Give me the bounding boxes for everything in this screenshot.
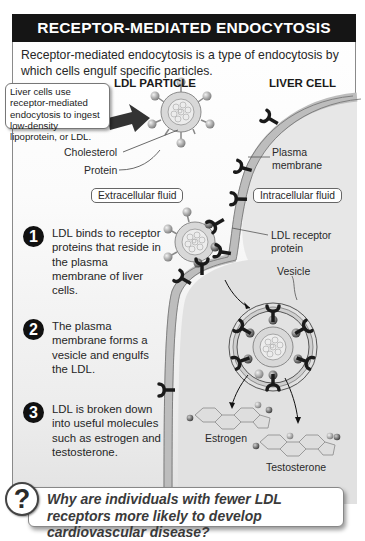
plasma-membrane-label-2: membrane [272,159,322,172]
step-2-number-icon: 2 [23,319,44,340]
cholesterol-label: Cholesterol [64,146,117,159]
question-box: Why are individuals with fewer LDL recep… [28,487,344,527]
ldl-receptor-label-2: protein [271,242,303,255]
step-1-number-icon: 1 [23,226,44,247]
step-2-text: The plasma membrane forms a vesicle and … [52,319,162,376]
protein-label: Protein [84,164,117,177]
callout-box: Liver cells use receptor-mediated endocy… [5,83,110,129]
vesicle-icon [229,303,317,391]
step-1-text: LDL binds to receptor proteins that resi… [52,226,162,297]
ldl-receptor-label-1: LDL receptor [271,229,331,242]
callout-arrow-icon [108,104,150,132]
extracellular-fluid-label: Extracellular fluid [91,188,183,203]
liver-cell-heading: LIVER CELL [269,77,336,89]
intracellular-fluid-label: Intracellular fluid [253,188,342,203]
question-mark-icon: ? [5,482,39,516]
plasma-membrane-label-1: Plasma [272,146,307,159]
estrogen-label: Estrogen [205,432,247,445]
step-3-number-icon: 3 [23,402,44,423]
ldl-particle-heading: LDL PARTICLE [114,77,196,89]
step-3-text: LDL is broken down into useful molecules… [52,402,162,459]
vesicle-label: Vesicle [277,265,310,278]
testosterone-label: Testosterone [266,461,326,474]
